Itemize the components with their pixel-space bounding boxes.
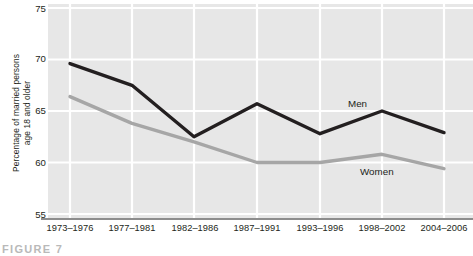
figure-container: Percentage of married persons age 18 and…: [0, 0, 473, 256]
series-label-women: Women: [360, 166, 394, 177]
y-axis-tick-label: 65: [26, 105, 46, 116]
chart-plot-svg: [48, 4, 473, 219]
y-axis-tick-label: 60: [26, 157, 46, 168]
x-axis-line: [41, 218, 473, 220]
figure-caption: FIGURE 7: [2, 243, 63, 255]
y-axis-tick-label: 70: [26, 53, 46, 64]
plot-area: [48, 4, 473, 219]
y-axis-tick-label: 75: [26, 3, 46, 14]
series-label-men: Men: [348, 98, 367, 109]
horizontal-gridlines: [48, 8, 473, 214]
x-axis-tick-label: 2004–2006: [401, 223, 473, 233]
